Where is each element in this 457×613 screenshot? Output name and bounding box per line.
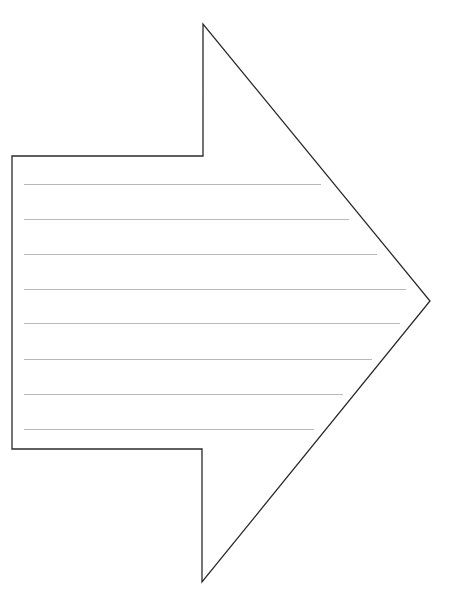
arrow-outline bbox=[12, 24, 430, 582]
arrow-writing-template bbox=[0, 0, 457, 613]
